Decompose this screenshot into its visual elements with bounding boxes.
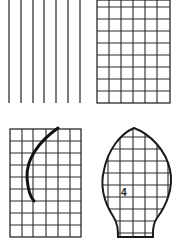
leaf-label: 4 <box>121 187 127 198</box>
diagram-canvas <box>0 0 180 240</box>
grid-with-curve-panel <box>10 128 81 237</box>
square-grid-panel <box>97 0 170 103</box>
vertical-lines-panel <box>9 0 80 103</box>
leaf-shape-grid-panel <box>90 120 180 240</box>
